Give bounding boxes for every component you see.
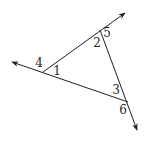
angle-label-6: 6 [119,104,127,116]
diagram-canvas [0,0,152,147]
line-left-to-bottom-right [12,62,128,102]
triangle-diagram: 1 2 3 4 5 6 [0,0,152,147]
angle-label-1: 1 [53,65,61,77]
angle-label-3: 3 [112,84,120,96]
angle-label-2: 2 [93,37,101,49]
angle-label-4: 4 [35,57,43,69]
angle-label-5: 5 [103,27,111,39]
